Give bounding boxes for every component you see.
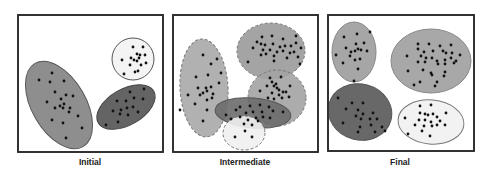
data-point — [421, 130, 424, 133]
data-point — [370, 124, 373, 127]
data-point — [345, 47, 348, 50]
data-point — [424, 119, 427, 122]
data-point — [68, 111, 71, 114]
data-point — [51, 119, 54, 122]
data-point — [69, 107, 72, 110]
data-point — [407, 133, 410, 136]
data-point — [271, 35, 274, 38]
data-point — [133, 97, 136, 100]
data-point — [251, 136, 254, 139]
data-point — [142, 98, 145, 101]
data-point — [276, 51, 279, 54]
data-point — [430, 121, 433, 124]
data-point — [262, 116, 265, 119]
data-point — [376, 118, 379, 121]
data-point — [65, 94, 68, 97]
data-point — [419, 81, 422, 84]
data-point — [144, 54, 147, 57]
panel-intermediate — [173, 15, 318, 152]
data-point — [81, 127, 84, 130]
data-point — [293, 51, 296, 54]
data-point — [431, 74, 434, 77]
data-point — [269, 77, 272, 80]
data-point — [211, 97, 214, 100]
data-point — [62, 107, 65, 110]
data-point — [268, 106, 271, 109]
data-point — [121, 59, 124, 62]
data-point — [282, 91, 285, 94]
data-point — [256, 41, 259, 44]
data-point — [273, 60, 276, 63]
data-point — [65, 137, 68, 140]
data-point — [355, 43, 358, 46]
data-point — [195, 76, 198, 79]
data-point — [451, 52, 454, 55]
data-point — [179, 109, 182, 112]
data-point — [343, 36, 346, 39]
data-point — [354, 59, 357, 62]
data-point — [372, 112, 375, 115]
data-point — [278, 89, 281, 92]
data-point — [273, 98, 276, 101]
data-point — [369, 118, 372, 121]
data-point — [235, 109, 238, 112]
data-point — [77, 115, 80, 118]
data-point — [436, 124, 439, 127]
data-point — [129, 91, 132, 94]
data-point — [362, 102, 365, 105]
data-point — [359, 58, 362, 61]
data-point — [145, 62, 148, 65]
data-point — [417, 48, 420, 51]
data-point — [49, 81, 52, 84]
data-point — [252, 47, 255, 50]
data-point — [286, 57, 289, 60]
data-point — [252, 111, 255, 114]
data-point — [116, 100, 119, 103]
data-point — [218, 82, 221, 85]
data-point — [267, 97, 270, 100]
data-point — [349, 55, 352, 58]
data-point — [266, 85, 269, 88]
data-point — [439, 120, 442, 123]
data-point — [243, 123, 246, 126]
data-point — [425, 57, 428, 60]
data-point — [419, 105, 422, 108]
data-point — [369, 31, 372, 34]
data-point — [459, 54, 462, 57]
data-point — [406, 55, 409, 58]
data-point — [455, 60, 458, 63]
data-point — [194, 103, 197, 106]
data-point — [187, 94, 190, 97]
data-point — [281, 97, 284, 100]
data-point — [420, 55, 423, 58]
data-point — [300, 47, 303, 50]
data-point — [357, 109, 360, 112]
data-point — [206, 109, 209, 112]
data-point — [444, 71, 447, 74]
data-point — [366, 50, 369, 53]
data-point — [126, 107, 129, 110]
data-point — [418, 119, 421, 122]
data-point — [239, 116, 242, 119]
data-point — [353, 80, 356, 83]
data-point — [123, 73, 126, 76]
data-point — [363, 42, 366, 45]
data-point — [351, 102, 354, 105]
data-point — [269, 49, 272, 52]
data-point — [424, 61, 427, 64]
data-point — [142, 46, 145, 49]
data-point — [54, 107, 57, 110]
data-point — [423, 51, 426, 54]
data-point — [436, 60, 439, 63]
data-point — [299, 63, 302, 66]
data-point — [63, 103, 66, 106]
data-point — [428, 43, 431, 46]
data-point — [345, 108, 348, 111]
data-point — [119, 113, 122, 116]
data-point — [444, 63, 447, 66]
panel-label-intermediate: Intermediate — [185, 157, 305, 167]
data-point — [255, 117, 258, 120]
data-point — [262, 49, 265, 52]
data-point — [133, 59, 136, 62]
data-point — [295, 35, 298, 38]
